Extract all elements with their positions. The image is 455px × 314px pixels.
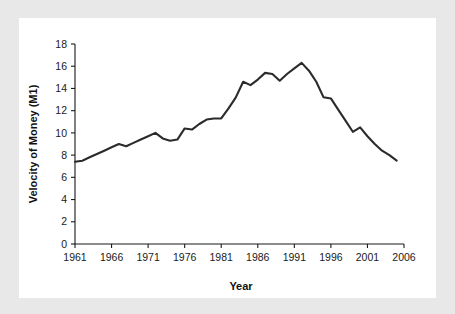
y-tick-label: 4	[61, 193, 67, 205]
x-tick-label: 2001	[356, 251, 380, 263]
y-tick-label: 2	[61, 215, 67, 227]
chart-figure: 024681012141618 196119661971197619811986…	[19, 18, 436, 298]
y-tick-label: 14	[55, 82, 67, 94]
x-tick-label: 2006	[392, 251, 416, 263]
x-tick-label: 1986	[246, 251, 270, 263]
y-tick-label: 6	[61, 171, 67, 183]
x-tick-label: 1996	[319, 251, 343, 263]
x-axis-title: Year	[229, 280, 253, 292]
y-tick-label: 0	[61, 238, 67, 250]
x-tick-label: 1971	[136, 251, 160, 263]
velocity-of-money-line-chart: 024681012141618 196119661971197619811986…	[19, 18, 436, 298]
y-tick-label: 18	[55, 38, 67, 50]
y-axis-title: Velocity of Money (M1)	[27, 84, 39, 203]
x-tick-label: 1991	[283, 251, 307, 263]
x-tick-label: 1966	[100, 251, 124, 263]
y-tick-label: 16	[55, 60, 67, 72]
y-tick-label: 10	[55, 127, 67, 139]
x-tick-label: 1961	[63, 251, 87, 263]
y-tick-label: 8	[61, 149, 67, 161]
x-tick-label: 1976	[173, 251, 197, 263]
x-tick-label: 1981	[210, 251, 234, 263]
y-tick-label: 12	[55, 104, 67, 116]
